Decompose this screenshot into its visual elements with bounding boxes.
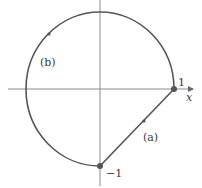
label-point-one: 1 <box>178 76 185 89</box>
label-point-minus-one: −1 <box>106 167 122 180</box>
point-one <box>171 86 177 92</box>
direction-marker-b <box>47 32 50 35</box>
point-minus-one <box>97 163 103 169</box>
contour-diagram: 1 x −1 (b) (a) <box>0 0 202 188</box>
label-x-axis: x <box>186 91 193 104</box>
label-path-b: (b) <box>40 56 56 69</box>
direction-marker-a <box>142 119 145 122</box>
path-a-segment <box>100 89 174 166</box>
label-path-a: (a) <box>143 131 158 144</box>
